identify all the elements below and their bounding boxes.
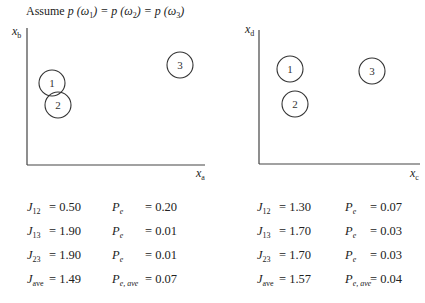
error-probability-value: = 0.07 (145, 272, 177, 287)
criterion-j-value: = 1.49 (49, 272, 81, 287)
error-probability-value: = 0.01 (145, 224, 177, 239)
error-probability-label: Pe (112, 224, 123, 240)
error-probability-label: Pe (345, 248, 356, 264)
svg-text:2: 2 (55, 99, 61, 111)
left-axes (27, 28, 205, 165)
error-probability-value: = 0.07 (370, 200, 402, 215)
cluster-3: 3 (359, 58, 385, 84)
error-probability-label: Pe (345, 224, 356, 240)
criterion-j-value: = 1.30 (279, 200, 311, 215)
criterion-j: J12 (257, 200, 271, 216)
right-axes (259, 30, 420, 164)
svg-text:3: 3 (369, 65, 375, 77)
criterion-j-value: = 1.70 (279, 248, 311, 263)
svg-text:1: 1 (287, 63, 293, 75)
svg-text:3: 3 (177, 59, 183, 71)
criterion-j: J13 (257, 224, 271, 240)
error-probability-label: Pe (345, 200, 356, 216)
error-probability-label: Pe, ave (345, 272, 371, 288)
error-probability-label: Pe (112, 200, 123, 216)
right-clusters: 123 (277, 56, 385, 117)
left-y-axis-label: xb (12, 24, 21, 40)
criterion-j: Jave (27, 272, 44, 288)
error-probability-value: = 0.03 (370, 248, 402, 263)
error-probability-value: = 0.20 (145, 200, 177, 215)
cluster-2: 2 (45, 92, 71, 118)
svg-text:1: 1 (49, 77, 55, 89)
criterion-j: J23 (27, 248, 41, 264)
error-probability-value: = 0.03 (370, 224, 402, 239)
cluster-3: 3 (167, 52, 193, 78)
right-x-axis-label: xc (410, 166, 419, 182)
criterion-j: J12 (27, 200, 41, 216)
error-probability-label: Pe (112, 248, 123, 264)
cluster-2: 2 (282, 91, 308, 117)
criterion-j: J13 (27, 224, 41, 240)
svg-text:2: 2 (292, 98, 298, 110)
criterion-j-value: = 1.57 (279, 272, 311, 287)
left-clusters: 123 (39, 52, 193, 118)
criterion-j: Jave (257, 272, 274, 288)
error-probability-label: Pe, ave (112, 272, 138, 288)
right-y-axis-label: xd (245, 22, 254, 38)
cluster-1: 1 (277, 56, 303, 82)
criterion-j: J23 (257, 248, 271, 264)
criterion-j-value: = 1.90 (49, 248, 81, 263)
error-probability-value: = 0.04 (370, 272, 402, 287)
left-x-axis-label: xa (196, 166, 205, 182)
criterion-j-value: = 1.90 (49, 224, 81, 239)
criterion-j-value: = 1.70 (279, 224, 311, 239)
error-probability-value: = 0.01 (145, 248, 177, 263)
criterion-j-value: = 0.50 (49, 200, 81, 215)
